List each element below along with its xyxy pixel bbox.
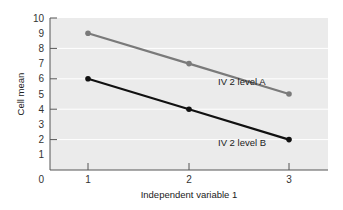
series-label: IV 2 level B [218, 137, 266, 148]
y-tick-label: 2 [38, 134, 44, 145]
data-point [186, 61, 192, 67]
y-axis-label: Cell mean [15, 73, 26, 116]
x-axis-label: Independent variable 1 [141, 189, 238, 200]
y-tick-label: 7 [38, 58, 44, 69]
y-tick-label: 4 [38, 104, 44, 115]
data-point [85, 76, 91, 82]
y-tick-label: 8 [38, 43, 44, 54]
data-point [286, 137, 292, 143]
x-tick-label: 1 [85, 174, 91, 185]
y-tick-label: 1 [38, 149, 44, 160]
y-tick-label: 5 [38, 89, 44, 100]
data-point [286, 91, 292, 97]
x-tick-label: 2 [186, 174, 192, 185]
y-tick-label: 6 [38, 73, 44, 84]
y-tick-label: 9 [38, 28, 44, 39]
y-tick-label: 0 [38, 174, 44, 185]
series-label: IV 2 level A [218, 76, 266, 87]
data-point [85, 30, 91, 36]
y-tick-label: 3 [38, 119, 44, 130]
line-chart: 012345678910123 IV 2 level AIV 2 level B… [0, 0, 343, 210]
x-tick-label: 3 [286, 174, 292, 185]
y-tick-label: 10 [33, 13, 45, 24]
data-point [186, 106, 192, 112]
